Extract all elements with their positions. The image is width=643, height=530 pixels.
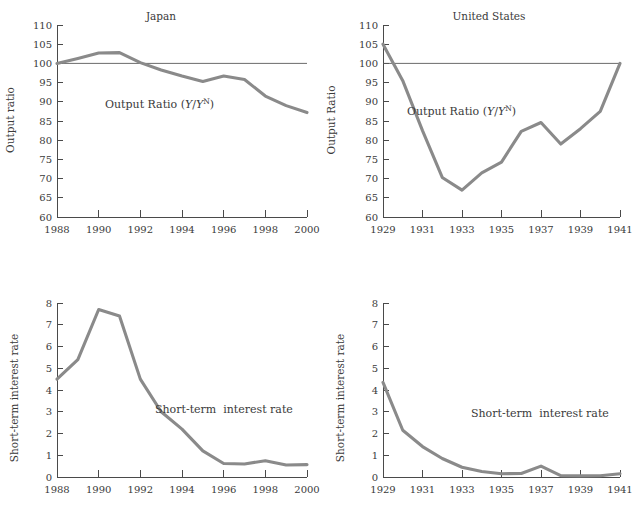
y-tick-label: 0 <box>46 472 52 483</box>
x-ticks-japan-rate <box>57 470 307 477</box>
y-tick-labels-us-rate: 0 1 2 3 4 5 6 7 8 <box>372 298 378 483</box>
y-tick-label: 105 <box>359 39 378 50</box>
y-tick-label: 60 <box>39 212 52 223</box>
x-tick-label: 1939 <box>568 484 593 495</box>
x-tick-label: 1992 <box>128 224 153 235</box>
x-tick-labels-us-output: 1929 1931 1933 1935 1937 1939 1941 <box>370 224 632 235</box>
x-tick-label: 1998 <box>253 484 278 495</box>
y-tick-label: 90 <box>39 96 52 107</box>
chart-title-us: United States <box>453 10 526 22</box>
y-tick-label: 100 <box>359 58 378 69</box>
x-ticks-japan-output <box>57 210 307 217</box>
x-tick-label: 1933 <box>449 484 474 495</box>
y-tick-label: 8 <box>372 298 378 309</box>
x-tick-label: 1996 <box>211 484 236 495</box>
data-line-japan-short-term-rate <box>57 310 307 466</box>
y-tick-label: 1 <box>372 450 378 461</box>
x-tick-label: 1994 <box>169 484 194 495</box>
y-axis-label-us-rate: Short-term interest rate <box>334 334 346 462</box>
inline-label-prefix: Output Ratio ( <box>105 98 185 111</box>
x-tick-label: 1941 <box>607 484 632 495</box>
y-ticks-japan-rate <box>57 303 63 477</box>
y-tick-label: 90 <box>365 96 378 107</box>
y-tick-label: 70 <box>365 173 378 184</box>
y-tick-label: 85 <box>39 116 52 127</box>
x-tick-label: 1933 <box>449 224 474 235</box>
x-tick-label: 1996 <box>211 224 236 235</box>
y-tick-label: 7 <box>46 319 52 330</box>
inline-label-japan-short-term-rate: Short-term interest rate <box>155 403 293 416</box>
x-tick-label: 1935 <box>489 484 514 495</box>
x-tick-label: 1990 <box>86 224 111 235</box>
y-tick-labels-us-output: 60 65 70 75 80 85 90 95 100 105 110 <box>359 20 378 223</box>
y-tick-label: 3 <box>46 406 52 417</box>
x-tick-labels-japan-rate: 1988 1990 1992 1994 1996 1998 2000 <box>44 484 319 495</box>
y-tick-label: 6 <box>46 341 52 352</box>
panel-us-output-ratio: United States Output Ratio 60 65 <box>321 0 643 265</box>
figure-root: Japan Output ratio 60 <box>0 0 643 530</box>
y-tick-label: 75 <box>365 154 378 165</box>
y-tick-label: 80 <box>39 135 52 146</box>
inline-label-us-output-ratio: Output Ratio (Y/YN) <box>407 104 516 118</box>
x-tick-label: 1935 <box>489 224 514 235</box>
y-tick-label: 95 <box>365 77 378 88</box>
y-axis-label-us-output: Output Ratio <box>325 86 337 155</box>
y-tick-label: 65 <box>365 192 378 203</box>
y-tick-label: 6 <box>372 341 378 352</box>
panel-us-short-term-rate: Short-term interest rate 0 1 2 3 4 <box>321 265 643 530</box>
y-tick-label: 75 <box>39 154 52 165</box>
x-tick-label: 2000 <box>294 224 319 235</box>
y-axis-label-japan-output: Output ratio <box>4 87 16 153</box>
x-tick-labels-japan-output: 1988 1990 1992 1994 1996 1998 2000 <box>44 224 319 235</box>
y-tick-label: 4 <box>372 385 378 396</box>
x-tick-label: 1988 <box>44 484 69 495</box>
y-tick-label: 60 <box>365 212 378 223</box>
x-tick-label: 1994 <box>169 224 194 235</box>
y-tick-label: 105 <box>33 39 52 50</box>
inline-label-prefix: Output Ratio ( <box>407 105 487 118</box>
y-tick-label: 110 <box>359 20 378 31</box>
x-tick-label: 1998 <box>253 224 278 235</box>
y-tick-label: 0 <box>372 472 378 483</box>
x-tick-label: 1988 <box>44 224 69 235</box>
y-tick-label: 5 <box>372 363 378 374</box>
y-tick-label: 85 <box>365 116 378 127</box>
x-tick-label: 1929 <box>370 224 395 235</box>
x-ticks-us-output <box>383 210 620 217</box>
x-tick-label: 1931 <box>410 224 435 235</box>
x-tick-label: 1941 <box>607 224 632 235</box>
x-tick-label: 1937 <box>528 484 553 495</box>
y-tick-label: 70 <box>39 173 52 184</box>
panel-japan-short-term-rate: Short-term interest rate 0 1 2 3 4 <box>0 265 322 530</box>
y-tick-label: 3 <box>372 406 378 417</box>
x-tick-label: 1992 <box>128 484 153 495</box>
y-tick-label: 1 <box>46 450 52 461</box>
inline-label-japan-output-ratio: Output Ratio (Y/YN) <box>105 97 214 111</box>
y-axis-label-japan-rate: Short-term interest rate <box>8 334 20 462</box>
panel-japan-output-ratio: Japan Output ratio 60 <box>0 0 322 265</box>
x-tick-label: 2000 <box>294 484 319 495</box>
y-tick-label: 2 <box>372 428 378 439</box>
x-tick-label: 1931 <box>410 484 435 495</box>
y-tick-label: 95 <box>39 77 52 88</box>
x-tick-labels-us-rate: 1929 1931 1933 1935 1937 1939 1941 <box>370 484 632 495</box>
y-tick-labels-japan-rate: 0 1 2 3 4 5 6 7 8 <box>46 298 52 483</box>
data-line-us-short-term-rate <box>383 382 620 476</box>
y-tick-label: 80 <box>365 135 378 146</box>
y-tick-label: 5 <box>46 363 52 374</box>
inline-label-suffix: ) <box>512 105 516 118</box>
chart-title-japan: Japan <box>145 10 176 22</box>
x-tick-label: 1929 <box>370 484 395 495</box>
y-tick-label: 4 <box>46 385 52 396</box>
x-tick-label: 1939 <box>568 224 593 235</box>
y-tick-label: 7 <box>372 319 378 330</box>
x-tick-label: 1990 <box>86 484 111 495</box>
y-tick-label: 2 <box>46 428 52 439</box>
x-tick-label: 1937 <box>528 224 553 235</box>
y-tick-label: 100 <box>33 58 52 69</box>
y-tick-label: 8 <box>46 298 52 309</box>
y-tick-label: 110 <box>33 20 52 31</box>
y-tick-label: 65 <box>39 192 52 203</box>
inline-label-suffix: ) <box>210 98 214 111</box>
y-tick-labels-japan-output: 60 65 70 75 80 85 90 95 100 105 110 <box>33 20 52 223</box>
